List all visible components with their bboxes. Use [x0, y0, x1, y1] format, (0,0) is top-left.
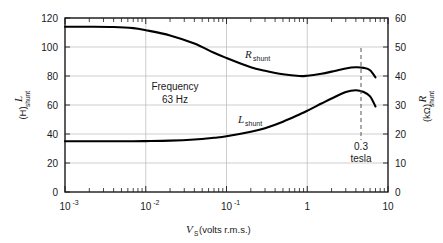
left-axis-tick-labels: 120 100 80 60 40 20 0: [41, 13, 58, 198]
right-ticklabel-20: 20: [395, 129, 407, 140]
x-axis-tick-labels: 10 -3 10 -2 10 -1 1 10: [59, 199, 394, 212]
right-axis-tick-labels: 60 50 40 30 20 10 0: [395, 13, 407, 198]
left-axis-title-units: (H): [17, 106, 28, 119]
svg-text:-1: -1: [234, 199, 240, 206]
left-axis-title-symbol: L: [12, 96, 24, 103]
left-ticklabel-100: 100: [41, 42, 58, 53]
left-axis-ticks: [65, 18, 70, 192]
right-ticklabel-10: 10: [395, 158, 407, 169]
svg-text:-3: -3: [72, 199, 78, 206]
chart-svg: 120 100 80 60 40 20 0 60 50 40 30 20 10 …: [0, 0, 443, 243]
curve-label-r-symbol: R: [244, 48, 252, 60]
right-axis-title-units: (kΩ): [421, 104, 432, 122]
left-axis-title-subscript: shunt: [24, 91, 31, 107]
curve-label-r-shunt: R shunt: [244, 48, 270, 62]
right-ticklabel-40: 40: [395, 71, 407, 82]
svg-text:10: 10: [140, 201, 152, 212]
right-ticklabel-0: 0: [395, 187, 401, 198]
left-ticklabel-80: 80: [47, 71, 59, 82]
x-ticklabel-1e-2: 10 -2: [140, 199, 159, 212]
right-ticklabel-60: 60: [395, 13, 407, 24]
x-axis-title: V S (volts r.m.s.): [186, 223, 251, 237]
right-ticklabel-30: 30: [395, 100, 407, 111]
left-ticklabel-20: 20: [47, 158, 59, 169]
svg-text:10: 10: [59, 201, 71, 212]
left-ticklabel-0: 0: [52, 187, 58, 198]
tesla-note-line2: tesla: [350, 153, 372, 164]
left-axis-title: L shunt (H): [12, 91, 31, 120]
curve-l-shunt: [65, 90, 375, 141]
left-ticklabel-40: 40: [47, 129, 59, 140]
left-ticklabel-120: 120: [41, 13, 58, 24]
x-ticklabel-1: 1: [304, 201, 310, 212]
svg-text:-2: -2: [153, 199, 159, 206]
right-axis-ticks: [383, 47, 388, 163]
x-axis-title-symbol: V: [186, 223, 194, 235]
svg-text:10: 10: [221, 201, 233, 212]
x-ticklabel-1e-3: 10 -3: [59, 199, 78, 212]
svg-text:1: 1: [304, 201, 310, 212]
right-axis-title: R shunt (kΩ): [416, 91, 435, 122]
curve-label-l-shunt: L shunt: [237, 113, 262, 127]
x-ticklabel-1e-1: 10 -1: [221, 199, 240, 212]
frequency-note-line2: 63 Hz: [162, 94, 188, 105]
right-axis-title-symbol: R: [416, 95, 428, 103]
curve-r-shunt: [65, 27, 375, 78]
right-ticklabel-50: 50: [395, 42, 407, 53]
annotation-tesla: 0.3 tesla: [350, 141, 372, 164]
chart-figure: 120 100 80 60 40 20 0 60 50 40 30 20 10 …: [0, 0, 443, 243]
tesla-note-line1: 0.3: [354, 141, 368, 152]
curve-label-l-symbol: L: [237, 113, 244, 125]
frequency-note-line1: Frequency: [151, 81, 198, 92]
left-ticklabel-60: 60: [47, 100, 59, 111]
x-ticklabel-10: 10: [382, 201, 394, 212]
x-axis-title-rest: (volts r.m.s.): [199, 224, 251, 235]
svg-text:10: 10: [382, 201, 394, 212]
annotation-frequency: Frequency 63 Hz: [151, 81, 198, 105]
curve-label-l-subscript: shunt: [245, 120, 262, 127]
curve-label-r-subscript: shunt: [253, 55, 270, 62]
